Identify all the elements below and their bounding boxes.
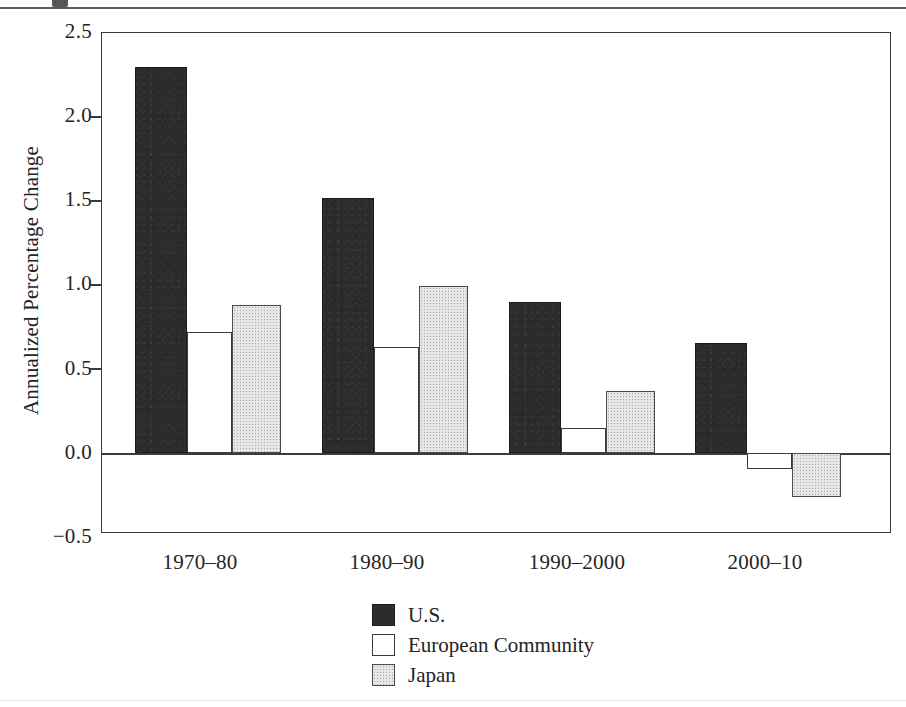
page-bottom-edge [0,700,906,701]
legend-item-japan: Japan [372,661,692,689]
legend-label-european-community: European Community [408,634,594,656]
y-tick-mark-2-0 [90,116,101,118]
legend-label-japan: Japan [408,664,456,686]
legend-swatch-japan-icon [372,664,395,686]
legend-swatch-us-icon [372,604,395,626]
bar-ec-1970-80 [187,332,232,453]
bar-ec-1990-2000 [561,428,606,453]
bar-us-1980-90 [322,198,374,453]
x-tick-label-1990-2000: 1990–2000 [487,550,667,575]
bar-jp-1970-80 [232,305,281,453]
y-axis-title: Annualized Percentage Change [19,66,44,496]
bar-chart-figure: 2.5 2.0 1.5 1.0 0.5 0.0 −0.5 Annualized … [0,0,906,707]
chart-legend: U.S. European Community Japan [372,601,692,691]
bar-jp-1990-2000 [606,391,655,453]
legend-label-us: U.S. [408,604,445,626]
y-tick-label-neg-0-5: −0.5 [30,526,92,547]
y-tick-mark-0-5 [90,368,101,370]
x-tick-label-1980-90: 1980–90 [307,550,467,575]
plot-area [101,32,891,533]
legend-item-us: U.S. [372,601,692,629]
y-tick-mark-1-5 [90,200,101,202]
bar-us-2000-10 [695,343,747,453]
y-tick-label-2-5: 2.5 [30,21,92,42]
bar-us-1970-80 [135,67,187,453]
bar-ec-2000-10 [747,453,792,469]
legend-item-european-community: European Community [372,631,692,659]
bar-ec-1980-90 [374,347,419,453]
x-tick-label-1970-80: 1970–80 [120,550,280,575]
y-tick-mark-1-0 [90,284,101,286]
legend-swatch-european-community-icon [372,634,395,656]
bar-us-1990-2000 [509,302,561,453]
bar-jp-1980-90 [419,286,468,453]
x-tick-label-2000-10: 2000–10 [685,550,845,575]
bar-jp-2000-10 [792,453,841,497]
